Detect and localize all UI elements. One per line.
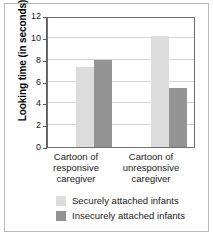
y-axis-tick-label: 12 <box>17 12 41 21</box>
y-axis-tick-label: 4 <box>17 99 41 108</box>
plot-area-wrapper <box>47 17 195 148</box>
y-axis-tick-mark <box>43 148 47 149</box>
y-axis-tick-label: 6 <box>17 78 41 87</box>
x-axis-label-group-1-line-2: responsive <box>36 162 116 173</box>
legend-label-insecurely-attached: Insecurely attached infants <box>72 210 185 221</box>
bar-insecurely-attached-group-2 <box>169 88 187 147</box>
legend-swatch-icon-insecurely-attached <box>56 211 66 221</box>
legend-item-securely-attached: Securely attached infants <box>56 193 185 208</box>
gridline <box>48 81 194 82</box>
gridline <box>48 59 194 60</box>
x-axis-label-group-1-line-3: caregiver <box>36 173 116 184</box>
x-axis-label-group-1-line-1: Cartoon of <box>36 151 116 162</box>
plot-area <box>47 17 195 148</box>
y-axis-tick-label: 8 <box>17 56 41 65</box>
y-axis-tick-label: 10 <box>17 34 41 43</box>
x-axis-label-group-2-line-3: caregiver <box>111 173 191 184</box>
legend-swatch-icon-securely-attached <box>56 196 66 206</box>
bar-insecurely-attached-group-1 <box>94 60 112 147</box>
chart-legend: Securely attached infants Insecurely att… <box>56 193 185 223</box>
y-axis-tick-label: 2 <box>17 121 41 130</box>
legend-label-securely-attached: Securely attached infants <box>72 195 179 206</box>
x-axis-label-group-2: Cartoon of unresponsive caregiver <box>111 151 191 184</box>
x-axis-label-group-2-line-2: unresponsive <box>111 162 191 173</box>
bar-securely-attached-group-1 <box>76 67 94 147</box>
x-axis-label-group-2-line-1: Cartoon of <box>111 151 191 162</box>
x-axis-label-group-1: Cartoon of responsive caregiver <box>36 151 116 184</box>
chart-figure: Looking time (in seconds) 024681012 Cart… <box>0 0 213 236</box>
legend-item-insecurely-attached: Insecurely attached infants <box>56 208 185 223</box>
gridline <box>48 37 194 38</box>
bar-securely-attached-group-2 <box>151 36 169 147</box>
